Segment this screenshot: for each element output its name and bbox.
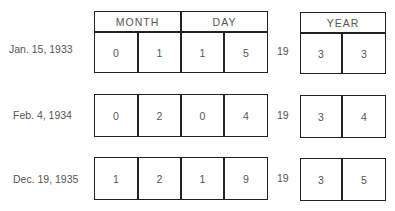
year-digit-2: 5 bbox=[342, 158, 386, 201]
day-digit-1: 0 bbox=[181, 94, 224, 137]
month-digit-1: 0 bbox=[94, 94, 138, 137]
day-digit-1: 1 bbox=[181, 157, 224, 200]
day-header: DAY bbox=[181, 11, 268, 32]
date-label: Feb. 4, 1934 bbox=[13, 109, 72, 121]
year-digit-1: 3 bbox=[300, 95, 342, 138]
day-digit-2: 4 bbox=[224, 94, 268, 137]
century-prefix: 19 bbox=[277, 172, 289, 184]
day-digit-1: 1 bbox=[181, 32, 224, 73]
date-label: Jan. 15, 1933 bbox=[9, 43, 73, 55]
day-digit-2: 9 bbox=[224, 157, 268, 200]
year-digit-1: 3 bbox=[300, 158, 342, 201]
month-digit-2: 2 bbox=[138, 157, 181, 200]
year-digit-2: 3 bbox=[342, 33, 386, 74]
month-digit-1: 0 bbox=[94, 32, 138, 73]
century-prefix: 19 bbox=[277, 45, 289, 57]
century-prefix: 19 bbox=[277, 109, 289, 121]
month-digit-1: 1 bbox=[94, 157, 138, 200]
year-digit-2: 4 bbox=[342, 95, 386, 138]
date-label: Dec. 19, 1935 bbox=[13, 173, 78, 185]
year-header: YEAR bbox=[300, 12, 386, 33]
month-digit-2: 1 bbox=[138, 32, 181, 73]
month-header: MONTH bbox=[94, 11, 181, 32]
day-digit-2: 5 bbox=[224, 32, 268, 73]
year-digit-1: 3 bbox=[300, 33, 342, 74]
month-digit-2: 2 bbox=[138, 94, 181, 137]
